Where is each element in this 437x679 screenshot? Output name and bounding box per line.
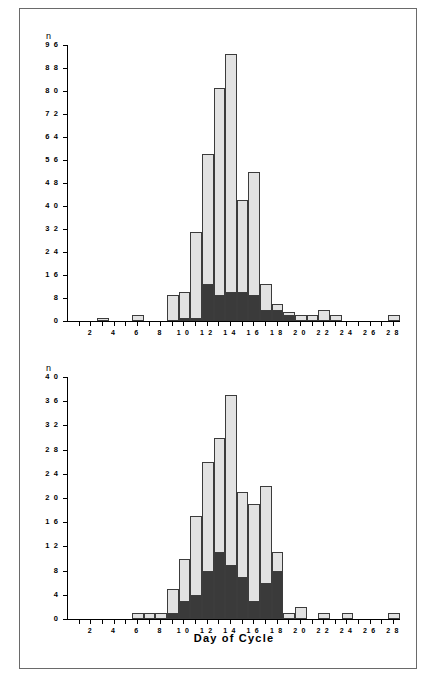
x-tick-mark bbox=[230, 620, 231, 624]
bar-group-day-20 bbox=[295, 315, 307, 321]
x-tick-mark bbox=[242, 620, 243, 624]
bar-segment-matings bbox=[330, 315, 342, 321]
bar-group-day-14 bbox=[225, 395, 237, 619]
bar-group-day-17 bbox=[260, 284, 272, 321]
plot-area-macaca: 081 62 43 24 04 85 66 47 28 08 89 6 2468… bbox=[67, 45, 400, 322]
bar-series-macaca bbox=[68, 45, 400, 321]
x-tick-label: 1 2 bbox=[200, 329, 213, 336]
y-tick-mark bbox=[63, 114, 67, 115]
x-tick-label: 2 2 bbox=[316, 329, 329, 336]
y-tick-label: 8 8 bbox=[45, 64, 59, 72]
x-tick-mark bbox=[358, 322, 359, 326]
x-tick-mark bbox=[90, 620, 91, 624]
y-tick-label: 0 bbox=[54, 615, 59, 623]
x-tick-label: 6 bbox=[134, 329, 139, 336]
x-tick-mark bbox=[288, 322, 289, 326]
y-tick-label: 5 6 bbox=[45, 156, 59, 164]
bar-segment-matings bbox=[179, 292, 191, 321]
x-tick-label: 4 bbox=[111, 627, 116, 634]
x-tick-mark bbox=[323, 620, 324, 624]
y-tick-mark bbox=[63, 229, 67, 230]
x-tick-mark bbox=[253, 620, 254, 624]
bar-segment-matings bbox=[132, 315, 144, 321]
y-tick-mark bbox=[63, 206, 67, 207]
x-tick-mark bbox=[393, 322, 394, 326]
bar-group-day-8 bbox=[155, 613, 167, 619]
bar-group-day-22 bbox=[318, 310, 330, 322]
chart-panel-macaca-mulatta: n Macaca mulatta HARTMAN [154] = MATINGS… bbox=[20, 9, 418, 354]
bar-group-day-6 bbox=[132, 315, 144, 321]
x-tick-mark bbox=[149, 620, 150, 624]
bar-segment-conceptions bbox=[283, 315, 295, 321]
bar-group-day-11 bbox=[190, 232, 202, 321]
y-tick-mark bbox=[63, 401, 67, 402]
bar-segment-conceptions bbox=[272, 571, 284, 619]
y-tick-label: 3 6 bbox=[45, 397, 59, 405]
y-tick-label: 8 bbox=[54, 567, 59, 575]
x-tick-mark bbox=[79, 322, 80, 326]
bar-segment-matings bbox=[225, 54, 237, 321]
y-tick-mark bbox=[63, 498, 67, 499]
bar-segment-matings bbox=[388, 315, 400, 321]
x-tick-mark bbox=[300, 322, 301, 326]
bar-group-day-11 bbox=[190, 516, 202, 619]
x-tick-mark bbox=[114, 322, 115, 326]
bar-group-day-16 bbox=[248, 504, 260, 619]
x-tick-mark bbox=[230, 322, 231, 326]
x-tick-label: 8 bbox=[158, 627, 163, 634]
bar-segment-conceptions bbox=[260, 583, 272, 619]
bar-group-day-7 bbox=[144, 613, 156, 619]
y-tick-mark bbox=[63, 425, 67, 426]
x-tick-mark bbox=[253, 322, 254, 326]
bar-group-day-15 bbox=[237, 200, 249, 321]
bar-segment-conceptions bbox=[237, 577, 249, 619]
plot-area-papio: 0481 21 62 02 42 83 23 64 0 24681 01 21 … bbox=[67, 377, 400, 620]
x-tick-mark bbox=[346, 322, 347, 326]
bar-group-day-18 bbox=[272, 304, 284, 321]
y-tick-label: 2 8 bbox=[45, 446, 59, 454]
x-tick-label: 2 0 bbox=[293, 329, 306, 336]
bar-segment-conceptions bbox=[272, 310, 284, 322]
bar-segment-matings bbox=[283, 613, 295, 619]
y-tick-mark bbox=[63, 68, 67, 69]
y-tick-mark bbox=[63, 45, 67, 46]
bar-group-day-9 bbox=[167, 295, 179, 321]
y-tick-mark bbox=[63, 91, 67, 92]
bar-group-day-19 bbox=[283, 613, 295, 619]
bar-group-day-12 bbox=[202, 462, 214, 619]
x-tick-mark bbox=[312, 620, 313, 624]
bar-segment-matings bbox=[318, 310, 330, 322]
x-tick-label: 2 8 bbox=[386, 329, 399, 336]
x-tick-label: 2 0 bbox=[293, 627, 306, 634]
x-tick-mark bbox=[172, 322, 173, 326]
bar-segment-conceptions bbox=[260, 310, 272, 322]
x-tick-label: 2 8 bbox=[386, 627, 399, 634]
bar-segment-conceptions bbox=[167, 613, 179, 619]
bar-segment-matings bbox=[144, 613, 156, 619]
y-tick-mark bbox=[63, 571, 67, 572]
x-tick-mark bbox=[323, 322, 324, 326]
bar-group-day-14 bbox=[225, 54, 237, 321]
x-tick-mark bbox=[195, 620, 196, 624]
y-tick-mark bbox=[63, 298, 67, 299]
x-tick-mark bbox=[137, 322, 138, 326]
x-axis-line-macaca bbox=[67, 321, 400, 322]
x-tick-mark bbox=[183, 322, 184, 326]
x-tick-mark bbox=[277, 620, 278, 624]
x-tick-mark bbox=[393, 620, 394, 624]
bar-segment-matings bbox=[295, 607, 307, 619]
x-tick-mark bbox=[381, 620, 382, 624]
bar-group-day-9 bbox=[167, 589, 179, 619]
bar-series-papio bbox=[68, 377, 400, 619]
x-tick-mark bbox=[172, 620, 173, 624]
x-tick-mark bbox=[300, 620, 301, 624]
bar-segment-conceptions bbox=[179, 318, 191, 321]
y-tick-mark bbox=[63, 474, 67, 475]
x-tick-mark bbox=[277, 322, 278, 326]
x-tick-label: 2 4 bbox=[340, 329, 353, 336]
bar-group-day-28 bbox=[388, 613, 400, 619]
y-tick-label: 2 4 bbox=[45, 470, 59, 478]
x-tick-mark bbox=[358, 620, 359, 624]
x-tick-label: 2 4 bbox=[340, 627, 353, 634]
y-tick-mark bbox=[63, 160, 67, 161]
